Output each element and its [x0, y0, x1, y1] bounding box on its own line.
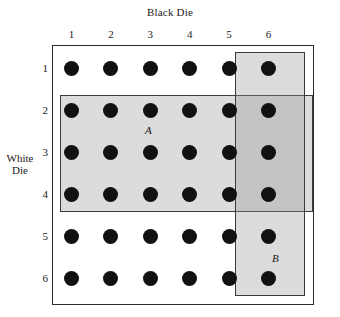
- row-tick-6: 6: [34, 272, 48, 284]
- outcome-dot-3-3: [143, 145, 158, 160]
- y-axis-title-line-1: White: [2, 152, 38, 164]
- column-tick-1: 1: [64, 28, 80, 40]
- outcome-dot-5-6: [222, 271, 237, 286]
- outcome-dot-6-3: [261, 145, 276, 160]
- column-tick-6: 6: [261, 28, 277, 40]
- outcome-dot-5-4: [222, 187, 237, 202]
- outcome-dot-1-4: [64, 187, 79, 202]
- event-a-label: A: [145, 124, 152, 136]
- outcome-dot-3-4: [143, 187, 158, 202]
- y-axis-title: White Die: [2, 152, 38, 176]
- outcome-dot-5-1: [222, 61, 237, 76]
- outcome-dot-5-2: [222, 103, 237, 118]
- column-tick-2: 2: [103, 28, 119, 40]
- outcome-dot-6-2: [261, 103, 276, 118]
- outcome-dot-5-3: [222, 145, 237, 160]
- x-axis-title: Black Die: [0, 6, 340, 18]
- outcome-dot-6-5: [261, 229, 276, 244]
- outcome-dot-3-2: [143, 103, 158, 118]
- y-axis-title-line-2: Die: [2, 164, 38, 176]
- row-tick-4: 4: [34, 188, 48, 200]
- column-tick-4: 4: [182, 28, 198, 40]
- outcome-dot-3-1: [143, 61, 158, 76]
- outcome-dot-3-6: [143, 271, 158, 286]
- row-tick-2: 2: [34, 104, 48, 116]
- row-tick-3: 3: [34, 146, 48, 158]
- column-tick-5: 5: [221, 28, 237, 40]
- outcome-dot-1-6: [64, 271, 79, 286]
- outcome-dot-1-1: [64, 61, 79, 76]
- outcome-dot-6-4: [261, 187, 276, 202]
- row-tick-5: 5: [34, 230, 48, 242]
- outcome-dot-3-5: [143, 229, 158, 244]
- outcome-dot-6-6: [261, 271, 276, 286]
- outcome-dot-1-3: [64, 145, 79, 160]
- row-tick-1: 1: [34, 62, 48, 74]
- outcome-dot-6-1: [261, 61, 276, 76]
- event-b-label: B: [272, 252, 279, 264]
- column-tick-3: 3: [142, 28, 158, 40]
- event-b-region: [235, 52, 305, 296]
- outcome-dot-5-5: [222, 229, 237, 244]
- outcome-dot-1-5: [64, 229, 79, 244]
- outcome-dot-1-2: [64, 103, 79, 118]
- dice-sample-space-figure: Black Die White Die 123456 123456 A B: [0, 0, 340, 317]
